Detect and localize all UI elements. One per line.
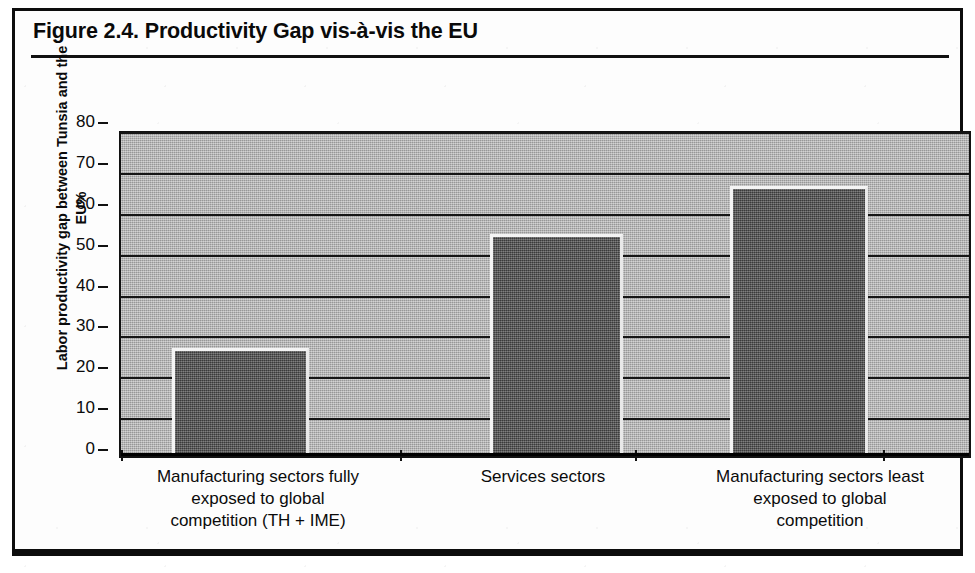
figure-bottom-rule <box>15 549 960 553</box>
bar-2 <box>490 234 623 456</box>
category-label-3: Manufacturing sectors leastexposed to gl… <box>675 466 965 532</box>
bar-1 <box>172 348 309 456</box>
title-divider <box>31 55 949 58</box>
y-tick-mark-50 <box>98 245 108 247</box>
category-label-2: Services sectors <box>423 466 663 488</box>
y-tick-label-40: 40 <box>55 276 95 296</box>
y-tick-label-60: 60 <box>55 194 95 214</box>
y-tick-mark-40 <box>98 286 108 288</box>
category-label-1-line-1: Manufacturing sectors fully <box>157 467 359 486</box>
axis-baseline <box>121 453 969 456</box>
y-tick-mark-20 <box>98 367 108 369</box>
y-tick-label-0: 0 <box>55 439 95 459</box>
plot-area <box>119 131 971 458</box>
y-tick-label-10: 10 <box>55 398 95 418</box>
figure-title: Figure 2.4. Productivity Gap vis-à-vis t… <box>33 19 478 44</box>
y-tick-mark-80 <box>98 122 108 124</box>
category-label-1-line-2: exposed to global <box>191 489 324 508</box>
bar-3 <box>730 186 868 456</box>
y-tick-label-30: 30 <box>55 316 95 336</box>
category-label-3-line-1: Manufacturing sectors least <box>716 467 924 486</box>
y-tick-label-20: 20 <box>55 357 95 377</box>
y-tick-label-70: 70 <box>55 153 95 173</box>
y-tick-mark-30 <box>98 326 108 328</box>
category-label-1: Manufacturing sectors fullyexposed to gl… <box>113 466 403 532</box>
category-label-3-line-3: competition <box>777 511 864 530</box>
category-label-2-line-1: Services sectors <box>481 467 606 486</box>
figure-frame: Figure 2.4. Productivity Gap vis-à-vis t… <box>12 8 963 556</box>
category-label-3-line-2: exposed to global <box>753 489 886 508</box>
y-tick-label-50: 50 <box>55 235 95 255</box>
gridline-70 <box>121 173 969 175</box>
y-tick-label-80: 80 <box>55 112 95 132</box>
category-label-1-line-3: competition (TH + IME) <box>170 511 345 530</box>
gridline-80 <box>121 132 969 134</box>
y-tick-mark-0 <box>98 449 108 451</box>
y-tick-mark-70 <box>98 163 108 165</box>
y-tick-mark-10 <box>98 408 108 410</box>
y-tick-mark-60 <box>98 204 108 206</box>
